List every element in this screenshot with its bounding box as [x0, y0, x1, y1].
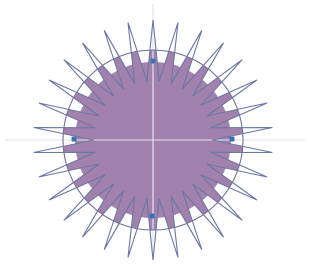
starburst-figure: [0, 0, 309, 266]
anchor-point-left[interactable]: [72, 137, 77, 142]
anchor-point-top[interactable]: [151, 59, 156, 64]
anchor-point-right[interactable]: [230, 137, 235, 142]
anchor-point-bottom[interactable]: [150, 214, 155, 219]
